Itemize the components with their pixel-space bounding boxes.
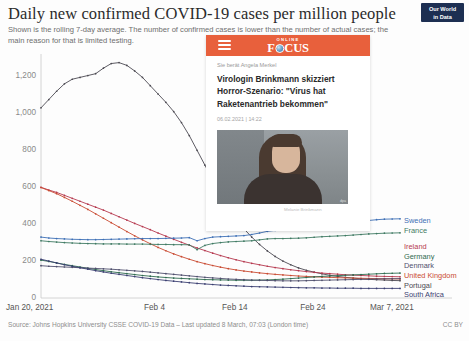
y-axis-tick: 400 <box>0 219 36 228</box>
chart-legend: SwedenFranceIrelandGermanyDenmarkUnited … <box>404 216 468 300</box>
legend-item-south-africa[interactable]: South Africa <box>404 290 468 300</box>
x-axis-tick: Mar 7, 2021 <box>370 303 414 312</box>
focus-wordmark: FCUS <box>267 42 308 54</box>
photo-caption: Melanie Brinkmann <box>284 207 322 212</box>
series-germany <box>40 259 401 281</box>
news-photo: dpa <box>217 130 348 204</box>
news-timestamp: 06.02.2021 | 14:22 <box>217 116 359 122</box>
legend-spacer <box>404 235 468 242</box>
focus-online-logo[interactable]: ONLINE FCUS <box>267 37 308 54</box>
headline-line-3: Raketenantrieb bekommen" <box>217 99 328 109</box>
photo-credit: dpa <box>340 199 346 203</box>
headline-line-1: Virologin Brinkmann skizziert <box>217 74 335 84</box>
legend-item-france[interactable]: France <box>404 226 468 236</box>
series-denmark <box>40 265 401 282</box>
x-axis-tick: Jan 20, 2021 <box>6 303 53 312</box>
y-axis-tick: 1,000 <box>0 108 36 117</box>
news-article-card[interactable]: ONLINE FCUS Sie berät Angela Merkel Viro… <box>206 35 370 231</box>
y-axis-tick: 0 <box>0 293 36 302</box>
photo-person-fringe <box>270 134 302 147</box>
y-axis-tick: 600 <box>0 182 36 191</box>
x-axis-tick: Feb 24 <box>300 303 326 312</box>
x-axis-tick: Feb 4 <box>144 303 165 312</box>
y-axis-tick: 200 <box>0 256 36 265</box>
source-note: Source: Johns Hopkins University CSSE CO… <box>8 321 308 328</box>
series-france <box>40 232 401 251</box>
x-axis-tick: Feb 14 <box>222 303 248 312</box>
news-kicker: Sie berät Angela Merkel <box>217 62 359 68</box>
license-note[interactable]: CC BY <box>443 321 463 328</box>
news-headline[interactable]: Virologin Brinkmann skizziert Horror-Sze… <box>217 73 359 110</box>
logo-line-1: Our World <box>421 5 464 13</box>
hamburger-menu-icon[interactable] <box>218 40 231 51</box>
page-title: Daily new confirmed COVID-19 cases per m… <box>8 4 396 24</box>
legend-item-ireland[interactable]: Ireland <box>404 242 468 252</box>
focus-letters-cus: CUS <box>284 41 308 55</box>
globe-icon <box>275 44 284 53</box>
series-south-africa <box>40 258 401 289</box>
y-axis-tick: 800 <box>0 145 36 154</box>
headline-line-2: Horror-Szenario: "Virus hat <box>217 86 326 96</box>
legend-item-sweden[interactable]: Sweden <box>404 216 468 226</box>
focus-letter-f: F <box>267 41 274 55</box>
legend-item-united-kingdom[interactable]: United Kingdom <box>404 271 468 281</box>
y-axis-tick: 1,200 <box>0 71 36 80</box>
owid-chart-page: Daily new confirmed COVID-19 cases per m… <box>0 0 469 341</box>
photo-person-body <box>244 174 322 204</box>
legend-item-portugal[interactable]: Portugal <box>404 281 468 291</box>
legend-item-denmark[interactable]: Denmark <box>404 261 468 271</box>
logo-line-2: in Data <box>421 13 464 21</box>
legend-item-germany[interactable]: Germany <box>404 252 468 262</box>
news-card-header: ONLINE FCUS <box>206 35 370 56</box>
our-world-in-data-logo[interactable]: Our World in Data <box>421 3 464 22</box>
